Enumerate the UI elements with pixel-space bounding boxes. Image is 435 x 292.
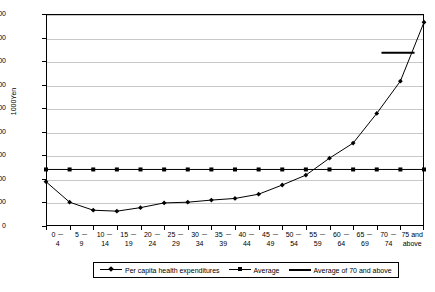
y-tick-label: 800: [0, 34, 6, 42]
x-tick-mark: [377, 226, 378, 230]
y-tick-mark: [42, 85, 46, 86]
x-tick-mark: [164, 226, 165, 230]
gridline: [47, 133, 423, 134]
y-tick-label: 600: [0, 81, 6, 89]
diamond-marker-icon: [100, 266, 122, 274]
x-tick-mark: [93, 226, 94, 230]
x-tick-mark: [70, 226, 71, 230]
y-axis-label: 1000Yen: [10, 67, 17, 137]
square-marker-icon: [229, 266, 251, 274]
x-tick-mark: [282, 226, 283, 230]
x-tick-mark: [306, 226, 307, 230]
gridline: [47, 62, 423, 63]
y-tick-mark: [42, 202, 46, 203]
legend-item-average-70-above: Average of 70 and above: [289, 266, 392, 274]
plot-area: [46, 14, 424, 226]
thick-line-marker-icon: [289, 266, 311, 274]
gridline: [47, 15, 423, 16]
x-tick-mark: [117, 226, 118, 230]
y-tick-label: 0: [0, 222, 6, 230]
x-tick-mark: [330, 226, 331, 230]
y-tick-label: 300: [0, 151, 6, 159]
gridline: [47, 180, 423, 181]
gridline: [47, 156, 423, 157]
legend-label-per-capita: Per capita health expenditures: [125, 267, 220, 274]
gridline: [47, 39, 423, 40]
y-tick-label: 700: [0, 57, 6, 65]
x-tick-mark: [353, 226, 354, 230]
legend-label-average: Average: [254, 267, 280, 274]
y-tick-label: 200: [0, 175, 6, 183]
legend-label-average-70-above: Average of 70 and above: [314, 267, 392, 274]
y-tick-label: 900: [0, 10, 6, 18]
y-tick-mark: [42, 155, 46, 156]
y-tick-label: 400: [0, 128, 6, 136]
y-tick-label: 100: [0, 198, 6, 206]
y-tick-label: 500: [0, 104, 6, 112]
x-tick-mark: [259, 226, 260, 230]
legend-item-average: Average: [229, 266, 280, 274]
x-tick-mark: [235, 226, 236, 230]
chart-legend: Per capita health expenditures Average A…: [93, 262, 399, 278]
y-tick-mark: [42, 179, 46, 180]
x-tick-mark: [46, 226, 47, 230]
y-tick-mark: [42, 108, 46, 109]
y-tick-mark: [42, 38, 46, 39]
x-tick-mark: [188, 226, 189, 230]
y-tick-mark: [42, 61, 46, 62]
y-tick-mark: [42, 14, 46, 15]
x-tick-mark: [141, 226, 142, 230]
gridline: [47, 109, 423, 110]
x-tick-mark: [423, 226, 424, 230]
x-tick-mark: [400, 226, 401, 230]
x-tick-mark: [211, 226, 212, 230]
y-tick-mark: [42, 132, 46, 133]
legend-item-per-capita: Per capita health expenditures: [100, 266, 220, 274]
gridline: [47, 203, 423, 204]
chart-container: 1000Yen 0100200300400500600700800900 0 －…: [0, 0, 435, 292]
gridline: [47, 86, 423, 87]
x-tick-label: 75 andabove: [395, 231, 429, 248]
